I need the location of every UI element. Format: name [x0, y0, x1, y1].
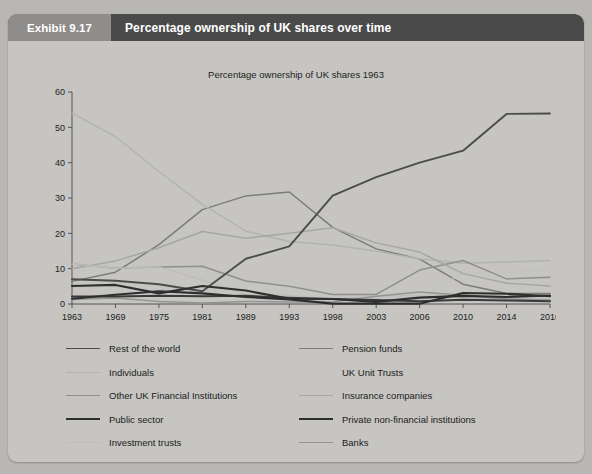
series-line	[72, 114, 550, 292]
legend-item-label: UK Unit Trusts	[342, 367, 403, 378]
line-chart-plot: 0102030405060196319691975198119891993199…	[46, 86, 556, 336]
y-tick-label: 50	[55, 123, 65, 133]
chart-svg: 0102030405060196319691975198119891993199…	[46, 86, 556, 336]
legend-swatch-icon	[66, 418, 100, 420]
legend-swatch-icon	[66, 348, 100, 349]
legend-item-label: Banks	[342, 437, 368, 448]
exhibit-title: Percentage ownership of UK shares over t…	[111, 14, 584, 41]
legend-item-label: Rest of the world	[109, 343, 180, 354]
legend-item-label: Private non-financial institutions	[342, 414, 476, 425]
y-tick-label: 30	[55, 193, 65, 203]
y-tick-label: 10	[55, 264, 65, 274]
y-tick-label: 20	[55, 229, 65, 239]
legend-swatch-icon	[66, 395, 100, 396]
legend-swatch-icon	[299, 395, 333, 396]
legend-swatch-icon	[66, 442, 100, 443]
legend-item[interactable]: Individuals	[66, 361, 311, 385]
legend-item-label: Insurance companies	[342, 390, 432, 401]
legend-item[interactable]: Pension funds	[299, 337, 564, 361]
x-tick-label: 1993	[279, 312, 299, 322]
x-tick-label: 1975	[149, 312, 169, 322]
legend-item[interactable]: Other UK Financial Institutions	[66, 384, 311, 408]
x-tick-label: 1969	[105, 312, 125, 322]
legend-item[interactable]: Insurance companies	[299, 384, 564, 408]
legend-item-label: Other UK Financial Institutions	[109, 390, 237, 401]
legend-item-label: Individuals	[109, 367, 154, 378]
legend-swatch-icon	[299, 418, 333, 420]
x-tick-label: 2016	[540, 312, 556, 322]
legend-column-right: Pension fundsUK Unit TrustsInsurance com…	[299, 337, 564, 455]
x-tick-label: 1989	[236, 312, 256, 322]
legend-item[interactable]: Public sector	[66, 408, 311, 432]
exhibit-panel: Exhibit 9.17 Percentage ownership of UK …	[8, 14, 584, 462]
x-tick-label: 1998	[323, 312, 343, 322]
x-tick-label: 2003	[366, 312, 386, 322]
legend-item-label: Pension funds	[342, 343, 402, 354]
x-tick-label: 2006	[410, 312, 430, 322]
legend-swatch-icon	[299, 372, 333, 373]
x-tick-label: 2010	[453, 312, 473, 322]
legend-item-label: Charities, church etc	[109, 461, 196, 462]
series-line	[72, 228, 550, 286]
chart-title: Percentage ownership of UK shares 1963	[8, 69, 584, 80]
y-tick-label: 40	[55, 158, 65, 168]
x-tick-label: 1981	[192, 312, 212, 322]
legend-item-label: Public sector	[109, 414, 163, 425]
chart-legend: Rest of the worldIndividualsOther UK Fin…	[44, 337, 564, 459]
screenshot-root: Exhibit 9.17 Percentage ownership of UK …	[0, 0, 592, 474]
exhibit-number: Exhibit 9.17	[8, 14, 111, 41]
legend-column-left: Rest of the worldIndividualsOther UK Fin…	[66, 337, 311, 462]
legend-item[interactable]: Banks	[299, 431, 564, 455]
legend-item[interactable]: Investment trusts	[66, 431, 311, 455]
exhibit-header: Exhibit 9.17 Percentage ownership of UK …	[8, 14, 584, 41]
legend-item[interactable]: Private non-financial institutions	[299, 408, 564, 432]
legend-item[interactable]: UK Unit Trusts	[299, 361, 564, 385]
legend-item-label: Investment trusts	[109, 437, 181, 448]
legend-item[interactable]: Rest of the world	[66, 337, 311, 361]
legend-swatch-icon	[66, 372, 100, 373]
series-line	[72, 270, 550, 299]
y-tick-label: 60	[55, 87, 65, 97]
legend-swatch-icon	[299, 442, 333, 443]
legend-item[interactable]: Charities, church etc	[66, 455, 311, 463]
y-tick-label: 0	[60, 299, 65, 309]
series-line	[72, 113, 550, 263]
chart-container: Percentage ownership of UK shares 1963 0…	[8, 41, 584, 462]
x-tick-label: 1963	[62, 312, 82, 322]
x-tick-label: 2014	[497, 312, 517, 322]
legend-swatch-icon	[299, 348, 333, 349]
